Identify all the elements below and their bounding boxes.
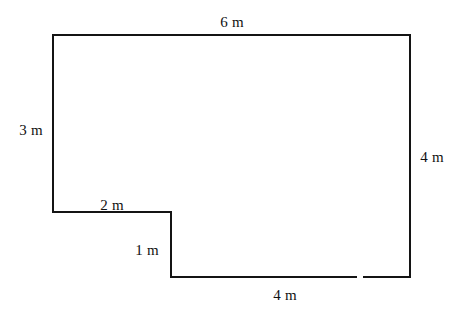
polygon-figure [0,0,471,314]
diagram-canvas: 6 m 3 m 4 m 4 m 2 m 1 m [0,0,471,314]
dimension-label-right: 4 m [420,150,444,165]
dimension-label-left: 3 m [19,123,43,138]
dimension-label-step-vertical: 1 m [135,243,159,258]
dimension-label-step-horizontal: 2 m [100,198,124,213]
polygon-outline [53,35,410,277]
dimension-label-bottom: 4 m [273,288,297,303]
dimension-label-top: 6 m [220,15,244,30]
